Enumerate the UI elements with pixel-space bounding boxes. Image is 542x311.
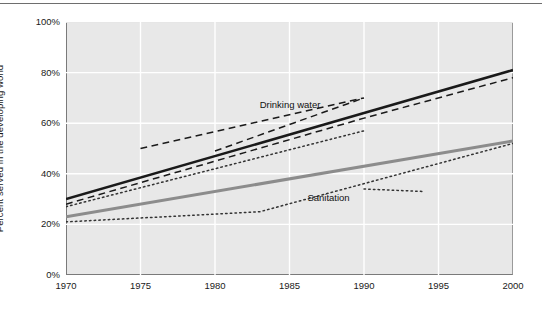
y-axis-tick-label: 40% [26,169,60,179]
y-axis-tick-label: 80% [26,68,60,78]
x-axis-tick-label: 1975 [117,281,165,291]
y-axis-tick-label: 100% [26,17,60,27]
y-axis-tick-label: 0% [26,270,60,280]
drinking-water-label: Drinking water [260,99,321,110]
top-divider-rule [0,3,542,4]
y-axis-tick-label: 60% [26,118,60,128]
x-axis-tick-label: 1995 [415,281,463,291]
x-axis-tick-label: 1980 [191,281,239,291]
y-axis-title-text: Percent served in the developing world [0,22,5,275]
chart-canvas [66,22,513,275]
x-axis-tick-labels: 1970197519801985199019952000 [0,281,542,295]
series-line [364,189,424,192]
chart-figure: Percent served in the developing world 0… [0,0,542,311]
x-axis-tick-label: 1970 [42,281,90,291]
y-axis-title: Percent served in the developing world [0,22,8,275]
x-axis-tick-label: 2000 [489,281,537,291]
y-axis-tick-label: 20% [26,219,60,229]
plot-area [66,22,513,275]
x-axis-tick-label: 1990 [340,281,388,291]
x-axis-tick-label: 1985 [266,281,314,291]
sanitation-label: Sanitation [307,192,349,203]
y-axis-tick-labels: 0%20%40%60%80%100% [26,0,60,311]
